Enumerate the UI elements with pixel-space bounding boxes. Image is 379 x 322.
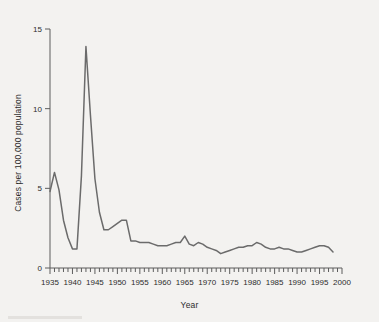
x-axis-tick-label: 1990 (288, 278, 306, 287)
x-axis-tick-label: 2000 (333, 278, 351, 287)
x-axis-title: Year (0, 300, 379, 310)
chart-series-group (50, 47, 333, 254)
line-chart-plot (0, 0, 379, 322)
y-axis-tick-label: 15 (18, 25, 42, 34)
x-axis-tick-label: 1965 (176, 278, 194, 287)
bottom-rule-decoration (8, 316, 82, 319)
y-axis-tick-label: 0 (18, 264, 42, 273)
x-axis-tick-label: 1955 (131, 278, 149, 287)
x-axis-tick-label: 1980 (243, 278, 261, 287)
x-axis-tick-label: 1950 (108, 278, 126, 287)
x-axis-tick-label: 1975 (221, 278, 239, 287)
x-axis-tick-label: 1935 (41, 278, 59, 287)
x-axis-tick-label: 1960 (153, 278, 171, 287)
chart-figure: Cases per 100,000 population Year 051015… (0, 0, 379, 322)
x-axis-tick-label: 1985 (266, 278, 284, 287)
chart-axes (45, 29, 342, 274)
x-axis-tick-label: 1970 (198, 278, 216, 287)
x-axis-tick-label: 1995 (311, 278, 329, 287)
x-axis-tick-label: 1945 (86, 278, 104, 287)
y-axis-title: Cases per 100,000 population (13, 73, 23, 233)
data-line-cases-per-100-000-population (50, 47, 333, 254)
x-axis-tick-label: 1940 (64, 278, 82, 287)
y-axis-tick-label: 10 (18, 104, 42, 113)
y-axis-tick-label: 5 (18, 184, 42, 193)
